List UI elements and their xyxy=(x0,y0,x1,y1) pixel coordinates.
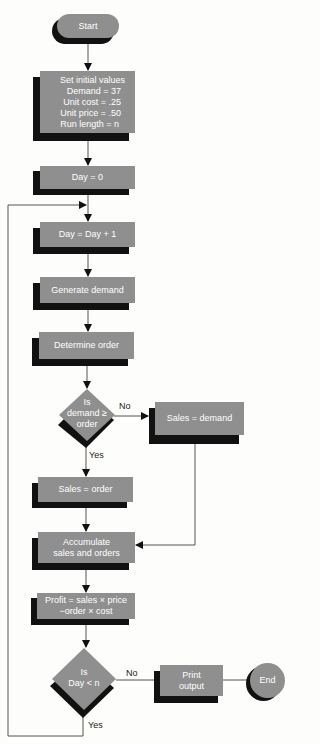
decision1-line2: demand ≥ xyxy=(59,408,115,419)
profit-line1: Profit = sales × price xyxy=(45,595,127,606)
decision2-yes-label: Yes xyxy=(88,720,103,730)
sales-order-label: Sales = order xyxy=(59,484,113,495)
profit-box: Profit = sales × price −order × cost xyxy=(31,593,135,625)
end-label: End xyxy=(259,675,275,686)
init-title: Set initial values xyxy=(60,75,125,86)
day-zero-box: Day = 0 xyxy=(33,166,135,195)
init-values-box: Set initial values Demand = 37 Unit cost… xyxy=(33,71,135,141)
print-line1: Print xyxy=(182,670,201,681)
print-output-box: Print output xyxy=(154,665,223,703)
end-terminal: End xyxy=(246,663,286,701)
generate-demand-label: Generate demand xyxy=(51,285,124,296)
decision1-line1: Is xyxy=(59,397,115,408)
day-zero-label: Day = 0 xyxy=(72,172,103,183)
print-line2: output xyxy=(179,681,204,692)
sales-order-box: Sales = order xyxy=(32,477,133,508)
sales-demand-label: Sales = demand xyxy=(167,413,232,424)
init-unit-cost: Unit cost = .25 xyxy=(63,97,121,108)
sales-demand-box: Sales = demand xyxy=(149,402,244,444)
accumulate-line1: Accumulate xyxy=(63,537,110,548)
generate-demand-box: Generate demand xyxy=(33,277,135,310)
decision-demand-vs-order: Is demand ≥ order xyxy=(55,389,117,449)
decision1-line3: order xyxy=(59,419,115,430)
determine-order-box: Determine order xyxy=(32,332,134,366)
decision2-no-label: No xyxy=(126,668,138,678)
decision1-yes-label: Yes xyxy=(89,450,104,460)
determine-order-label: Determine order xyxy=(54,340,119,351)
init-run-length: Run length = n xyxy=(60,119,119,130)
init-demand: Demand = 37 xyxy=(67,86,121,97)
decision1-no-label: No xyxy=(119,401,131,411)
decision-day-less-than-n: Is Day < n xyxy=(48,648,118,718)
day-increment-box: Day = Day + 1 xyxy=(33,222,135,254)
start-terminal: Start xyxy=(52,14,120,44)
decision2-line2: Day < n xyxy=(54,678,114,689)
init-unit-price: Unit price = .50 xyxy=(60,108,121,119)
start-label: Start xyxy=(78,21,97,32)
profit-line2: −order × cost xyxy=(59,606,112,617)
accumulate-line2: sales and orders xyxy=(53,548,120,559)
accumulate-box: Accumulate sales and orders xyxy=(32,532,135,570)
day-increment-label: Day = Day + 1 xyxy=(59,229,117,240)
decision2-line1: Is xyxy=(54,667,114,678)
